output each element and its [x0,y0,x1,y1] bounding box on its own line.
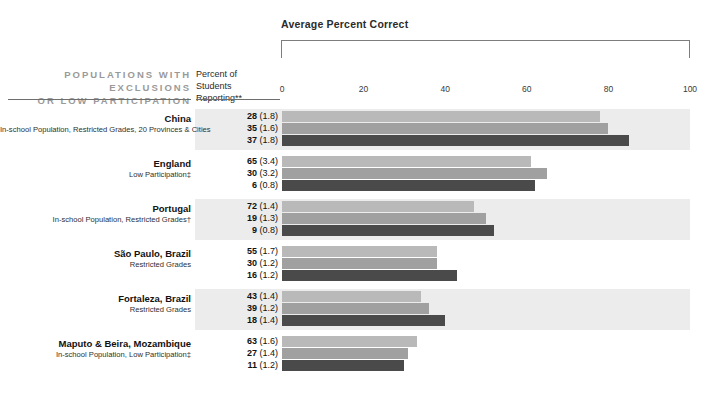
chart-row: São Paulo, BrazilRestricted Grades55 (1.… [0,242,707,287]
x-tick-100: 100 [683,84,697,94]
bar-segment [282,123,608,134]
row-bars [0,201,707,238]
bar-segment [282,246,437,257]
bar-segment [282,201,474,212]
axis-title: Average Percent Correct [281,18,408,30]
row-bars [0,336,707,373]
x-tick-60: 60 [522,84,531,94]
bar-segment [282,270,457,281]
x-tick-0: 0 [280,84,285,94]
row-bars [0,156,707,193]
bar-segment [282,303,429,314]
percent-header-line1: Percent of [196,68,280,80]
header-divider-left [8,99,191,100]
axis-bracket [281,40,690,58]
bar-segment [282,225,494,236]
row-bars [0,246,707,283]
x-tick-80: 80 [604,84,613,94]
x-tick-20: 20 [359,84,368,94]
bar-segment [282,336,417,347]
bar-segment [282,291,421,302]
chart-row: Fortaleza, BrazilRestricted Grades43 (1.… [0,287,707,332]
bar-segment [282,213,486,224]
header-divider-right [196,99,280,100]
bar-segment [282,180,535,191]
x-axis-ticks: 020406080100 [0,84,707,98]
bar-segment [282,111,600,122]
bar-segment [282,348,408,359]
chart-row: Maputo & Beira, MozambiqueIn-school Popu… [0,332,707,377]
chart-row: ChinaIn-school Population, Restricted Gr… [0,107,707,152]
bar-segment [282,360,404,371]
x-tick-40: 40 [440,84,449,94]
row-bars [0,291,707,328]
chart-rows: ChinaIn-school Population, Restricted Gr… [0,107,707,377]
bar-segment [282,168,547,179]
bar-segment [282,315,445,326]
bar-segment [282,135,629,146]
chart-row: EnglandLow Participation‡65 (3.4)30 (3.2… [0,152,707,197]
chart-row: PortugalIn-school Population, Restricted… [0,197,707,242]
bar-segment [282,258,437,269]
row-bars [0,111,707,148]
bar-segment [282,156,531,167]
chart-page: Average Percent Correct POPULATIONS WITH… [0,0,707,397]
